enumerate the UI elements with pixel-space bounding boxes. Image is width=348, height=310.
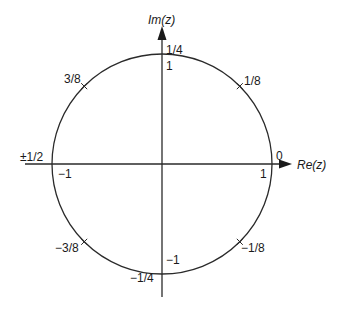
axis-value-right: 1 [260, 167, 267, 181]
freq-label-0: 0 [276, 149, 283, 163]
imag-axis-label: Im(z) [148, 13, 175, 27]
real-axis-label: Re(z) [297, 158, 326, 172]
unit-circle-diagram: Im(z) Re(z) 1 1 −1 −1 0 1/8 1/4 3/8 ±1/2… [0, 0, 348, 310]
freq-label-minus-1-4: −1/4 [130, 271, 154, 285]
freq-label-3-8: 3/8 [64, 72, 81, 86]
freq-label-minus-1-8: −1/8 [241, 241, 265, 255]
freq-label-minus-3-8: −3/8 [55, 241, 79, 255]
freq-label-1-8: 1/8 [244, 74, 261, 88]
imag-axis-arrow-icon [158, 26, 167, 40]
axis-value-top: 1 [166, 59, 173, 73]
freq-label-1-4: 1/4 [166, 43, 183, 57]
freq-label-half: ±1/2 [20, 150, 44, 164]
axis-value-bottom: −1 [166, 253, 180, 267]
axis-value-left: −1 [58, 167, 72, 181]
